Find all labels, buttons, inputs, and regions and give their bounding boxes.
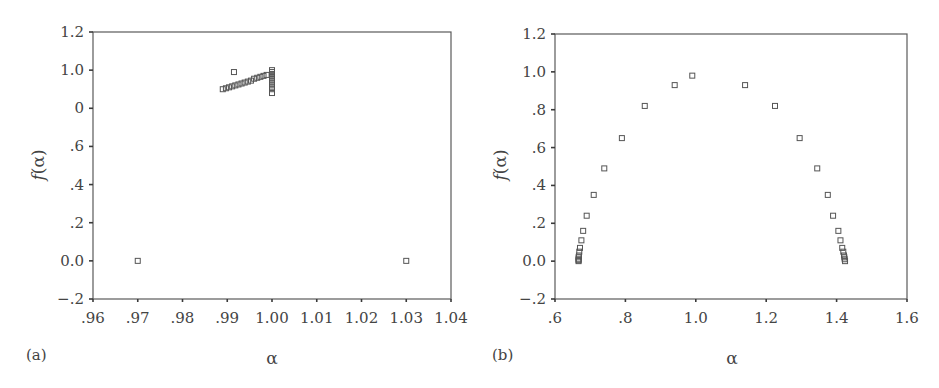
data-point-marker bbox=[231, 70, 236, 75]
x-tick-label: 1.00 bbox=[255, 309, 288, 327]
data-point-marker bbox=[838, 238, 843, 243]
y-tick-label: .4 bbox=[70, 176, 84, 194]
data-point-marker bbox=[591, 192, 596, 197]
data-point-marker bbox=[797, 136, 802, 141]
y-axis-ticks: 1.21.00.6.4.20.0−.2 bbox=[57, 23, 93, 308]
x-axis-ticks: .6.81.01.21.41.6 bbox=[548, 299, 919, 327]
y-tick-label: −.2 bbox=[57, 290, 84, 308]
y-tick-label: .6 bbox=[70, 137, 84, 155]
data-point-marker bbox=[619, 136, 624, 141]
data-point-marker bbox=[135, 258, 140, 263]
x-tick-label: 1.03 bbox=[390, 309, 423, 327]
x-tick-label: 1.4 bbox=[825, 309, 849, 327]
y-tick-label: −.2 bbox=[519, 290, 546, 308]
scatter-plot-b: 1.21.0.8.6.4.20.0−.2 .6.81.01.21.41.6 f(… bbox=[470, 0, 939, 388]
scatter-plot-a: 1.21.00.6.4.20.0−.2 .96.97.98.991.001.01… bbox=[0, 0, 470, 388]
y-tick-label: 1.0 bbox=[60, 61, 84, 79]
x-tick-label: .98 bbox=[171, 309, 195, 327]
data-point-marker bbox=[579, 238, 584, 243]
y-tick-label: 0.0 bbox=[522, 252, 546, 270]
y-tick-label: .4 bbox=[532, 176, 546, 194]
x-tick-label: 1.02 bbox=[345, 309, 378, 327]
y-tick-label: .2 bbox=[532, 214, 546, 232]
x-tick-label: 1.2 bbox=[754, 309, 778, 327]
data-point-marker bbox=[642, 103, 647, 108]
x-tick-label: .96 bbox=[81, 309, 105, 327]
y-tick-label: 1.2 bbox=[60, 23, 84, 41]
x-tick-label: .6 bbox=[548, 309, 562, 327]
data-point-marker bbox=[825, 192, 830, 197]
x-tick-label: 1.01 bbox=[300, 309, 333, 327]
data-points bbox=[135, 68, 409, 264]
plot-frame bbox=[555, 34, 907, 299]
data-point-marker bbox=[672, 83, 677, 88]
y-tick-label: .6 bbox=[532, 139, 546, 157]
chart-panel-a: 1.21.00.6.4.20.0−.2 .96.97.98.991.001.01… bbox=[0, 0, 470, 388]
y-axis-title: f(α) bbox=[28, 149, 48, 182]
x-axis-title: α bbox=[726, 348, 738, 368]
data-point-marker bbox=[773, 103, 778, 108]
y-tick-label: .8 bbox=[532, 101, 546, 119]
x-tick-label: .97 bbox=[126, 309, 150, 327]
x-tick-label: .8 bbox=[618, 309, 632, 327]
data-point-marker bbox=[831, 213, 836, 218]
data-point-marker bbox=[602, 166, 607, 171]
data-point-marker bbox=[581, 228, 586, 233]
data-points bbox=[576, 73, 847, 264]
x-tick-label: 1.6 bbox=[895, 309, 919, 327]
y-tick-label: 1.2 bbox=[522, 25, 546, 43]
data-point-marker bbox=[404, 258, 409, 263]
data-point-marker bbox=[584, 213, 589, 218]
y-axis-title: f(α) bbox=[490, 149, 510, 182]
plot-frame bbox=[93, 32, 451, 299]
x-axis-ticks: .96.97.98.991.001.011.021.031.04 bbox=[81, 299, 468, 327]
data-point-marker bbox=[815, 166, 820, 171]
x-axis-title: α bbox=[266, 348, 278, 368]
x-tick-label: 1.0 bbox=[684, 309, 708, 327]
y-tick-label: .2 bbox=[70, 214, 84, 232]
panel-label: (a) bbox=[26, 346, 47, 364]
chart-panel-b: 1.21.0.8.6.4.20.0−.2 .6.81.01.21.41.6 f(… bbox=[470, 0, 939, 388]
y-tick-label: 1.0 bbox=[522, 63, 546, 81]
x-tick-label: 1.04 bbox=[434, 309, 467, 327]
y-axis-ticks: 1.21.0.8.6.4.20.0−.2 bbox=[519, 25, 555, 308]
y-tick-label: 0.0 bbox=[60, 252, 84, 270]
data-point-marker bbox=[836, 228, 841, 233]
data-point-marker bbox=[743, 83, 748, 88]
y-tick-label: 0 bbox=[74, 99, 84, 117]
x-tick-label: .99 bbox=[215, 309, 239, 327]
panel-label: (b) bbox=[492, 346, 513, 364]
data-point-marker bbox=[690, 73, 695, 78]
